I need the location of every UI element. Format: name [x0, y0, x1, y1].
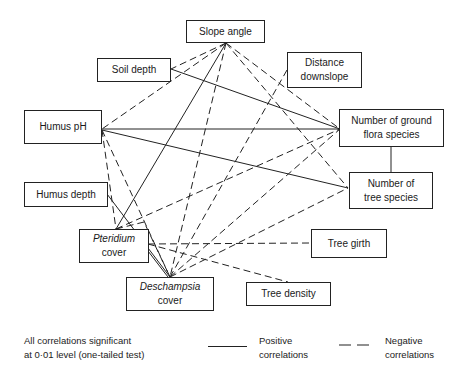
node-label: Slope angle: [199, 25, 252, 39]
legend-positive-line1: Positive: [259, 334, 308, 348]
node-distance-downslope: Distance downslope: [287, 52, 362, 88]
node-label-line2: tree species: [364, 191, 418, 205]
node-label-line2: cover: [140, 294, 201, 308]
node-tree-species: Number of tree species: [349, 172, 433, 209]
edge-pteridium-deschampsia: [148, 251, 168, 277]
node-label-line2: cover: [93, 246, 135, 260]
legend-negative-line2: correlations: [385, 348, 434, 362]
node-slope-angle: Slope angle: [186, 20, 265, 43]
edge-distance-deschampsia: [170, 70, 287, 277]
node-label-line2: flora species: [351, 128, 432, 142]
node-humus-ph: Humus pH: [24, 110, 102, 144]
legend-positive: Positive correlations: [259, 334, 308, 362]
node-label-line1: Deschampsia: [140, 280, 201, 294]
legend-positive-line2: correlations: [259, 348, 308, 362]
legend-negative-line: [339, 340, 371, 350]
legend-negative: Negative correlations: [385, 334, 434, 362]
legend-note-line2: at 0·01 level (one-tailed test): [24, 348, 144, 362]
legend-note-line1: All correlations significant: [24, 334, 144, 348]
node-label: Tree girth: [328, 237, 370, 251]
node-label: Soil depth: [112, 63, 156, 77]
node-label-line1: Pteridium: [93, 232, 135, 246]
node-label: Humus depth: [36, 188, 95, 202]
node-deschampsia-cover: Deschampsia cover: [126, 277, 214, 311]
node-soil-depth: Soil depth: [97, 58, 171, 82]
node-tree-girth: Tree girth: [311, 229, 387, 258]
legend-positive-line: [208, 346, 247, 347]
node-label: Tree density: [261, 287, 316, 301]
node-label: Humus pH: [39, 120, 86, 134]
node-tree-density: Tree density: [246, 282, 331, 306]
node-humus-depth: Humus depth: [24, 182, 108, 207]
node-ground-flora-species: Number of ground flora species: [339, 109, 444, 147]
legend-note: All correlations significant at 0·01 lev…: [24, 334, 144, 362]
edge-pteridium-tree_girth: [148, 243, 311, 244]
edge-pteridium-ground_flora: [116, 129, 340, 229]
node-label-line1: Distance: [301, 56, 349, 70]
node-label-line1: Number of ground: [351, 114, 432, 128]
node-label-line1: Number of: [364, 177, 418, 191]
node-pteridium-cover: Pteridium cover: [79, 229, 149, 263]
node-label-line2: downslope: [301, 70, 349, 84]
legend-negative-line1: Negative: [385, 334, 434, 348]
edge-slope_angle-humus_ph: [102, 43, 226, 129]
